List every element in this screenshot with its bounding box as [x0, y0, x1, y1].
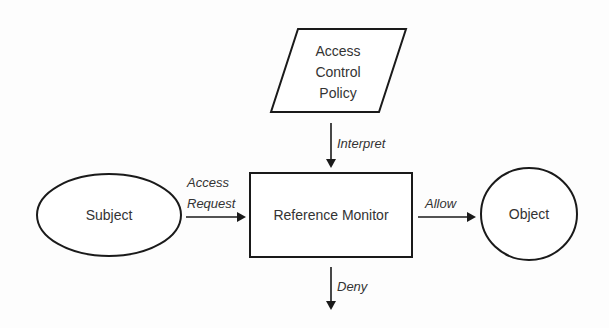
access-request-label-line-1: Access: [186, 175, 229, 190]
deny-label: Deny: [337, 279, 369, 294]
subject-label: Subject: [86, 207, 133, 223]
edge-access-request: Access Request: [186, 175, 246, 222]
arrow-down-icon: [326, 159, 336, 168]
policy-label-line-2: Control: [315, 64, 360, 80]
object-label: Object: [509, 206, 550, 222]
policy-label-line-1: Access: [315, 43, 360, 59]
node-access-control-policy: Access Control Policy: [271, 29, 406, 112]
edge-allow: Allow: [418, 196, 476, 222]
access-request-label-line-2: Request: [187, 196, 237, 211]
reference-monitor-label: Reference Monitor: [273, 207, 389, 223]
arrow-down-icon: [326, 301, 336, 310]
edge-deny: Deny: [326, 267, 369, 310]
policy-label-line-3: Policy: [319, 85, 356, 101]
reference-monitor-diagram: Access Control Policy Interpret Subject …: [0, 0, 609, 328]
node-object: Object: [481, 168, 577, 260]
diagram-canvas: Access Control Policy Interpret Subject …: [0, 0, 609, 328]
node-subject: Subject: [37, 174, 181, 256]
node-reference-monitor: Reference Monitor: [250, 173, 412, 257]
arrow-right-icon: [237, 212, 246, 222]
edge-interpret: Interpret: [326, 123, 387, 168]
interpret-label: Interpret: [337, 136, 387, 151]
allow-label: Allow: [424, 196, 458, 211]
arrow-right-icon: [467, 212, 476, 222]
